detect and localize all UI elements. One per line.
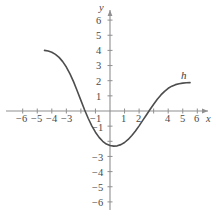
x-axis-label: x <box>206 114 211 125</box>
y-tick-label: −4 <box>92 168 103 179</box>
y-tick-label: 4 <box>96 46 101 57</box>
y-tick-label: −1 <box>92 123 103 134</box>
y-tick-label: −6 <box>92 198 103 209</box>
x-tick-label: 2 <box>136 114 141 125</box>
x-tick-label: 1 <box>121 114 126 125</box>
y-tick-label: 1 <box>96 92 101 103</box>
x-tick-label: 5 <box>180 114 185 125</box>
function-curve-h <box>45 50 191 146</box>
x-tick-label: 6 <box>194 114 199 125</box>
axes-group <box>6 10 208 210</box>
curve-label-h: h <box>181 70 187 81</box>
x-tick-label: −4 <box>46 114 57 125</box>
x-tick-label: −3 <box>61 114 72 125</box>
y-tick-label: −3 <box>92 153 103 164</box>
coordinate-plane <box>0 0 216 217</box>
y-axis-arrowhead <box>108 10 113 16</box>
y-tick-label: 3 <box>96 61 101 72</box>
graph-figure: −6−5−4−3−112456 654321−1−3−4−5−6 x y h <box>0 0 216 217</box>
y-tick-label: −5 <box>92 183 103 194</box>
y-tick-label: 6 <box>96 16 101 27</box>
x-tick-label: −5 <box>31 114 42 125</box>
x-tick-label: −6 <box>16 114 27 125</box>
y-tick-label: 2 <box>96 77 101 88</box>
y-axis-label: y <box>99 3 104 14</box>
y-tick-label: 5 <box>96 31 101 42</box>
x-tick-label: 4 <box>165 114 170 125</box>
